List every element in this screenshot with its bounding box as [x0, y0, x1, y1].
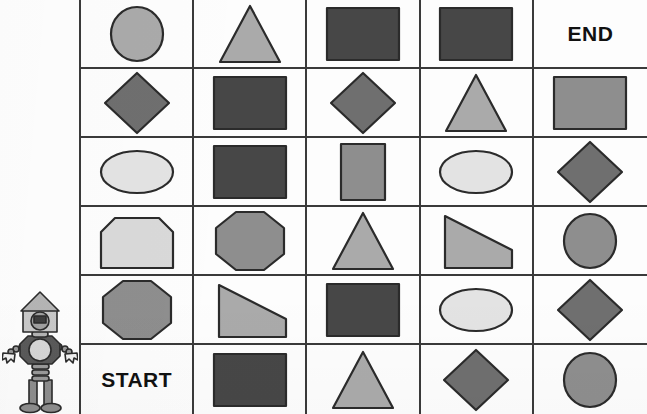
shape-ellipse: [82, 139, 192, 205]
robot-icon: [2, 288, 78, 414]
cell-r1c1-circle[interactable]: [81, 0, 194, 69]
shape-rectangle: [195, 70, 305, 136]
shape-triangle: [308, 208, 418, 274]
cell-r6c4-diamond[interactable]: [421, 345, 534, 414]
cell-r2c5-rectangle[interactable]: [534, 69, 647, 138]
shape-rectangle: [421, 1, 531, 67]
cell-r2c3-diamond[interactable]: [307, 69, 420, 138]
shape-diamond: [421, 347, 531, 413]
cell-r5c1-octagon[interactable]: [81, 276, 194, 345]
shape-diamond: [308, 70, 418, 136]
cell-r3c3-square[interactable]: [307, 138, 420, 207]
cell-r4c5-circle[interactable]: [534, 207, 647, 276]
shape-trapezoid: [195, 277, 305, 343]
cell-r5c4-ellipse[interactable]: [421, 276, 534, 345]
cell-r5c2-trapezoid[interactable]: [194, 276, 307, 345]
shape-rectangle: [195, 139, 305, 205]
cell-r3c4-ellipse[interactable]: [421, 138, 534, 207]
cell-r4c3-triangle[interactable]: [307, 207, 420, 276]
cell-r3c2-rectangle[interactable]: [194, 138, 307, 207]
cell-r3c5-diamond[interactable]: [534, 138, 647, 207]
shape-circle: [82, 1, 192, 67]
shape-diamond: [535, 277, 645, 343]
shape-trapezoid: [421, 208, 531, 274]
shape-diamond: [82, 70, 192, 136]
shape-rectangle: [308, 1, 418, 67]
cell-r2c1-diamond[interactable]: [81, 69, 194, 138]
cell-r4c1-hexagon[interactable]: [81, 207, 194, 276]
robot-mascot: [2, 288, 78, 414]
end-label: END: [567, 22, 613, 46]
shape-diamond: [535, 139, 645, 205]
cell-r5c3-rectangle[interactable]: [307, 276, 420, 345]
shape-circle: [535, 347, 645, 413]
cell-end[interactable]: END: [534, 0, 647, 69]
cell-r2c4-triangle[interactable]: [421, 69, 534, 138]
shape-rectangle: [535, 70, 645, 136]
shape-ellipse: [421, 139, 531, 205]
maze-grid: ENDSTART: [79, 0, 647, 414]
cell-r6c2-rectangle[interactable]: [194, 345, 307, 414]
cell-r6c3-triangle[interactable]: [307, 345, 420, 414]
cell-r5c5-diamond[interactable]: [534, 276, 647, 345]
cell-start[interactable]: START: [81, 345, 194, 414]
shape-rectangle: [308, 277, 418, 343]
cell-r4c2-octagon[interactable]: [194, 207, 307, 276]
shape-triangle: [308, 347, 418, 413]
shape-ellipse: [421, 277, 531, 343]
worksheet-page: ENDSTART: [0, 0, 647, 414]
cell-r6c5-circle[interactable]: [534, 345, 647, 414]
cell-r3c1-ellipse[interactable]: [81, 138, 194, 207]
shape-square: [308, 139, 418, 205]
shape-circle: [535, 208, 645, 274]
shape-octagon: [195, 208, 305, 274]
cell-r1c3-rectangle[interactable]: [307, 0, 420, 69]
shape-octagon: [82, 277, 192, 343]
shape-triangle: [421, 70, 531, 136]
cell-r1c2-triangle[interactable]: [194, 0, 307, 69]
cell-r1c4-rectangle[interactable]: [421, 0, 534, 69]
cell-r2c2-rectangle[interactable]: [194, 69, 307, 138]
shape-rectangle: [195, 347, 305, 413]
shape-hexagon: [82, 208, 192, 274]
shape-triangle: [195, 1, 305, 67]
cell-r4c4-trapezoid[interactable]: [421, 207, 534, 276]
start-label: START: [101, 368, 172, 392]
